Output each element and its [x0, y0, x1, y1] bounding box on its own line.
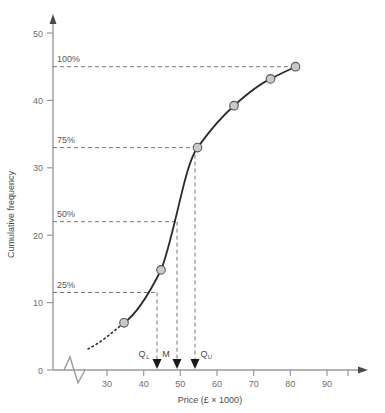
- curve-lead-in-dashed: [88, 323, 124, 349]
- data-point: [266, 75, 275, 84]
- percentile-vertical-lines: [157, 148, 195, 362]
- marker-arrowheads: [153, 359, 200, 369]
- percent-label-50: 50%: [57, 209, 75, 219]
- y-tick-label-50: 50: [33, 29, 43, 39]
- label-lower-quartile: Q L: [138, 349, 150, 360]
- y-axis: [50, 14, 57, 370]
- chart-container: 0 10 20 30 40 50 Cumulative frequency: [0, 0, 385, 413]
- percent-label-25: 25%: [57, 280, 75, 290]
- ql-base-label: Q: [138, 349, 145, 359]
- label-upper-quartile: Q U: [200, 349, 212, 360]
- x-axis-ticks: [107, 370, 348, 376]
- percent-label-75: 75%: [57, 135, 75, 145]
- qu-base-label: Q: [200, 349, 207, 359]
- data-point: [230, 101, 239, 110]
- x-axis-tick-labels: 30 40 50 60 70 80 90: [102, 379, 332, 389]
- y-axis-ticks: [47, 33, 53, 370]
- x-axis-arrowhead: [358, 367, 368, 374]
- y-axis-title: Cumulative frequency: [6, 170, 16, 258]
- x-axis-title: Price (£ × 1000): [178, 395, 242, 405]
- y-tick-label-20: 20: [33, 231, 43, 241]
- percent-label-100: 100%: [57, 54, 80, 64]
- cumulative-frequency-curve: [124, 67, 296, 323]
- y-tick-label-40: 40: [33, 96, 43, 106]
- y-tick-label-10: 10: [33, 298, 43, 308]
- cumulative-frequency-chart: 0 10 20 30 40 50 Cumulative frequency: [0, 0, 385, 413]
- x-tick-label-40: 40: [139, 379, 149, 389]
- qu-arrowhead: [191, 359, 200, 369]
- y-axis-arrowhead: [50, 14, 57, 24]
- y-tick-label-0: 0: [38, 366, 43, 376]
- data-point: [157, 266, 166, 275]
- data-points: [120, 62, 300, 327]
- percentile-horizontal-lines: [53, 67, 296, 293]
- data-point: [120, 319, 129, 328]
- x-axis: [53, 367, 368, 374]
- x-tick-label-50: 50: [175, 379, 185, 389]
- y-axis-tick-labels: 0 10 20 30 40 50: [33, 29, 43, 376]
- x-tick-label-30: 30: [102, 379, 112, 389]
- ql-arrowhead: [153, 359, 162, 369]
- marker-labels: Q L M Q U: [138, 349, 212, 360]
- x-tick-label-60: 60: [212, 379, 222, 389]
- label-median: M: [162, 349, 170, 359]
- data-point: [193, 143, 202, 152]
- data-point: [291, 62, 300, 71]
- x-tick-label-80: 80: [285, 379, 295, 389]
- y-tick-label-30: 30: [33, 163, 43, 173]
- m-base-label: M: [162, 349, 170, 359]
- m-arrowhead: [173, 359, 182, 369]
- percentile-labels: 25% 50% 75% 100%: [57, 54, 80, 290]
- ql-sub-label: L: [146, 354, 150, 360]
- x-tick-label-90: 90: [322, 379, 332, 389]
- x-tick-label-70: 70: [249, 379, 259, 389]
- qu-sub-label: U: [208, 354, 212, 360]
